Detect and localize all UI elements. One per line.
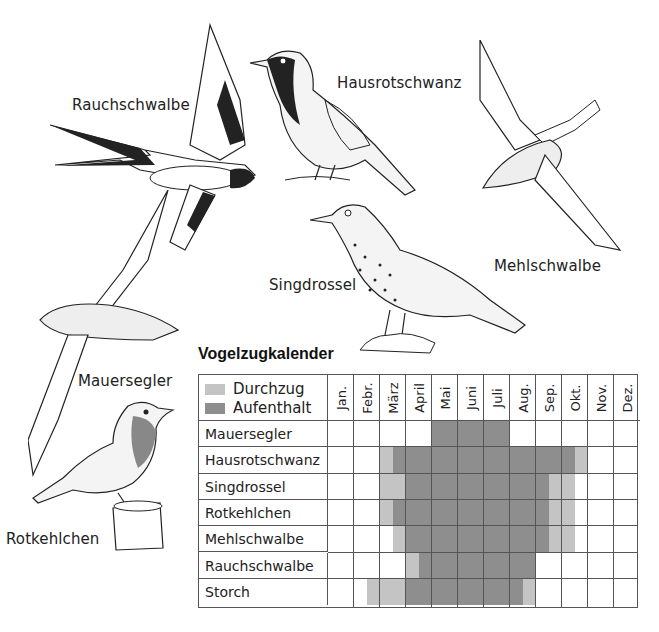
calendar-title: Vogelzugkalender [198,345,334,363]
migration-calendar: Durchzug Aufenthalt Jan. Febr. März Apri… [198,374,638,608]
month-header: Jan. [328,375,354,421]
grid-vline [483,421,484,607]
row-label-storch: Storch [199,579,328,605]
month-label: Dez. [620,383,635,412]
grid-hline [328,578,637,579]
bar-durchzug [549,500,575,526]
month-label: Sep. [541,383,556,412]
month-header: Okt. [562,375,588,421]
legend-label: Aufenthalt [233,399,311,417]
grid-vline [457,421,458,607]
bar-aufenthalt [419,553,536,579]
grid-vline [431,421,432,607]
legend-item-durchzug: Durchzug [205,380,305,398]
row-label-singdrossel: Singdrossel [199,474,328,500]
month-label: Okt. [567,384,582,411]
swatch-aufenthalt [205,403,225,414]
legend-label: Durchzug [233,380,305,398]
grid-hline [328,525,637,526]
bar-aufenthalt [393,447,575,473]
grid-vline [613,421,614,607]
month-label: Jan. [333,385,348,409]
hausrotschwanz-illustration [245,45,425,200]
grid-vline [405,421,406,607]
month-label: Febr. [359,382,374,413]
bar-durchzug [380,500,393,526]
bar-durchzug [367,579,406,605]
month-label: Mai [437,386,452,409]
month-header: Sep. [536,375,562,421]
grid-hline [328,552,637,553]
month-header: Aug. [510,375,536,421]
bar-durchzug [549,526,575,552]
bar-durchzug [380,474,406,500]
singdrossel-illustration [310,195,530,355]
bar-durchzug [549,474,575,500]
month-label: Nov. [593,383,608,412]
bar-aufenthalt [406,526,549,552]
bar-aufenthalt [406,474,549,500]
legend-item-aufenthalt: Aufenthalt [205,399,311,417]
legend: Durchzug Aufenthalt [199,375,328,421]
bar-aufenthalt [393,500,549,526]
row-label-mehlschwalbe: Mehlschwalbe [199,526,328,552]
month-label: März [385,382,400,413]
grid-hline [328,446,637,447]
month-label: Juli [489,388,504,407]
swatch-durchzug [205,384,225,395]
grid-hline [328,473,637,474]
grid-vline [561,421,562,607]
grid-vline [353,421,354,607]
month-header: Nov. [588,375,614,421]
month-header: Juni [458,375,484,421]
month-header: Febr. [354,375,380,421]
month-label: Aug. [515,383,530,413]
month-header: Mai [432,375,458,421]
month-header: April [406,375,432,421]
grid-vline [535,421,536,607]
bar-aufenthalt [432,421,510,447]
bar-durchzug [406,553,419,579]
bar-aufenthalt [406,579,523,605]
grid-vline [509,421,510,607]
month-header: Juli [484,375,510,421]
grid-vline [587,421,588,607]
row-label-mauersegler: Mauersegler [199,421,328,447]
month-header: Dez. [614,375,640,421]
row-label-rotkehlchen: Rotkehlchen [199,500,328,526]
row-label-rauchschwalbe: Rauchschwalbe [199,553,328,579]
row-label-hausrotschwanz: Hausrotschwanz [199,447,328,473]
rotkehlchen-illustration [28,398,178,553]
grid-vline [379,421,380,607]
month-label: April [411,383,426,413]
bar-durchzug [380,447,393,473]
month-label: Juni [463,386,478,410]
grid-hline [328,499,637,500]
month-header: März [380,375,406,421]
